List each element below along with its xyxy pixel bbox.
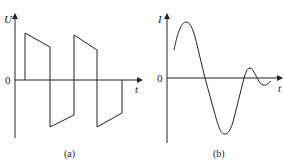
t-axis-label-a: t: [135, 83, 139, 95]
origin-label-b: 0: [157, 72, 163, 84]
t-axis-label-b: t: [278, 82, 282, 94]
caption-b: (b): [213, 148, 225, 160]
origin-label-a: 0: [5, 74, 11, 86]
panel-a: [15, 14, 142, 138]
figure-canvas: U 0 t (a) I 0 t (b): [0, 0, 284, 163]
u-axis-label: U: [4, 13, 13, 25]
caption-a: (a): [64, 148, 75, 160]
i-axis-label: I: [157, 13, 163, 25]
panel-b: [167, 14, 282, 143]
